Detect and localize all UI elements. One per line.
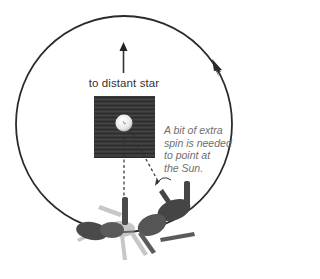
note-line: spin is needed — [164, 137, 238, 150]
person-figure — [75, 181, 195, 260]
star-direction-arrow — [120, 42, 128, 73]
note-line: the Sun. — [164, 162, 238, 175]
star-direction-label: to distant star — [78, 77, 170, 89]
spin-annotation: A bit of extra spin is needed to point a… — [164, 124, 238, 174]
note-line: to point at — [164, 149, 238, 162]
note-line: A bit of extra — [164, 124, 238, 137]
